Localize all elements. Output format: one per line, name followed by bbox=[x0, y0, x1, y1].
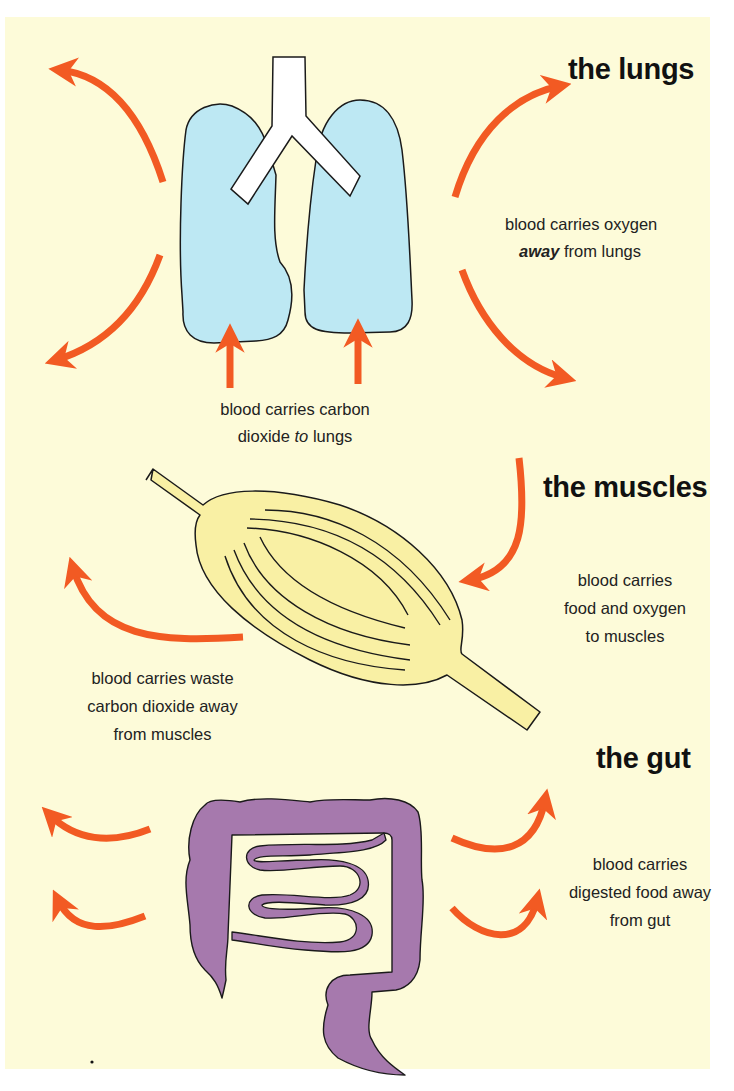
large-intestine bbox=[186, 799, 423, 1076]
gut-caption: blood carries digested food away from gu… bbox=[560, 850, 720, 934]
gut-heading: the gut bbox=[596, 742, 691, 775]
curved-arrow-icon bbox=[455, 86, 560, 197]
lungs-caption-to-line1: blood carries carbon bbox=[210, 396, 380, 423]
lungs-illustration bbox=[180, 57, 412, 343]
curved-arrow-icon bbox=[50, 815, 150, 838]
curved-arrow-icon bbox=[56, 255, 160, 360]
speck bbox=[90, 1060, 93, 1063]
emphasis-away: away bbox=[519, 242, 559, 260]
muscles-caption-in-line2: food and oxygen bbox=[545, 594, 705, 622]
lungs-caption-to-line2-rest: lungs bbox=[308, 427, 352, 445]
curved-arrow-icon bbox=[452, 800, 545, 849]
intestine-illustration bbox=[186, 799, 423, 1076]
muscles-caption-out: blood carries waste carbon dioxide away … bbox=[70, 664, 255, 748]
curved-arrow-icon bbox=[60, 70, 163, 182]
lungs-heading: the lungs bbox=[568, 53, 694, 86]
lungs-caption-away: blood carries oxygen away from lungs bbox=[505, 211, 655, 265]
gut-caption-line1: blood carries bbox=[560, 850, 720, 878]
curved-arrow-icon bbox=[462, 270, 565, 378]
muscles-caption-in-line1: blood carries bbox=[545, 566, 705, 594]
lungs-caption-to: blood carries carbon dioxide to lungs bbox=[210, 396, 380, 450]
emphasis-to: to bbox=[295, 427, 309, 445]
curved-arrow-icon bbox=[470, 458, 522, 580]
lungs-caption-to-line2-pre: dioxide bbox=[238, 427, 295, 445]
muscles-caption-in: blood carries food and oxygen to muscles bbox=[545, 566, 705, 650]
lungs-caption-away-line1: blood carries oxygen bbox=[505, 211, 655, 238]
gut-caption-line2: digested food away bbox=[560, 878, 720, 906]
lungs-caption-to-line2: dioxide to lungs bbox=[210, 423, 380, 450]
muscles-caption-out-line2: carbon dioxide away bbox=[70, 692, 255, 720]
small-intestine bbox=[232, 833, 386, 952]
muscles-heading: the muscles bbox=[543, 471, 707, 504]
curved-arrow-icon bbox=[452, 900, 537, 935]
gut-caption-line3: from gut bbox=[560, 906, 720, 934]
lungs-caption-away-line2-rest: from lungs bbox=[559, 242, 641, 260]
muscles-caption-in-line3: to muscles bbox=[545, 622, 705, 650]
curved-arrow-icon bbox=[58, 900, 145, 927]
muscles-caption-out-line1: blood carries waste bbox=[70, 664, 255, 692]
lungs-caption-away-line2: away from lungs bbox=[505, 238, 655, 265]
muscles-caption-out-line3: from muscles bbox=[70, 720, 255, 748]
